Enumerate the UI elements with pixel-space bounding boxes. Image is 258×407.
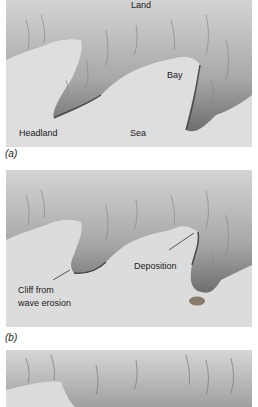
label-deposition: Deposition — [134, 261, 177, 272]
label-cliff-line1: Cliff from — [18, 285, 54, 296]
panel-a-caption: (a) — [5, 148, 17, 159]
coastline-drawing-c — [6, 350, 252, 407]
panel-b-caption: (b) — [5, 332, 17, 343]
coastline-drawing-a — [6, 0, 252, 147]
panel-a-illustration: Land Bay Headland Sea — [6, 0, 252, 147]
label-sea: Sea — [130, 128, 146, 139]
label-land: Land — [131, 0, 151, 11]
label-headland: Headland — [19, 128, 58, 139]
panel-b-illustration: Deposition Cliff from wave erosion — [6, 170, 252, 327]
label-bay: Bay — [167, 70, 183, 81]
label-cliff-line2: wave erosion — [18, 298, 71, 309]
panel-c-illustration — [6, 350, 252, 407]
